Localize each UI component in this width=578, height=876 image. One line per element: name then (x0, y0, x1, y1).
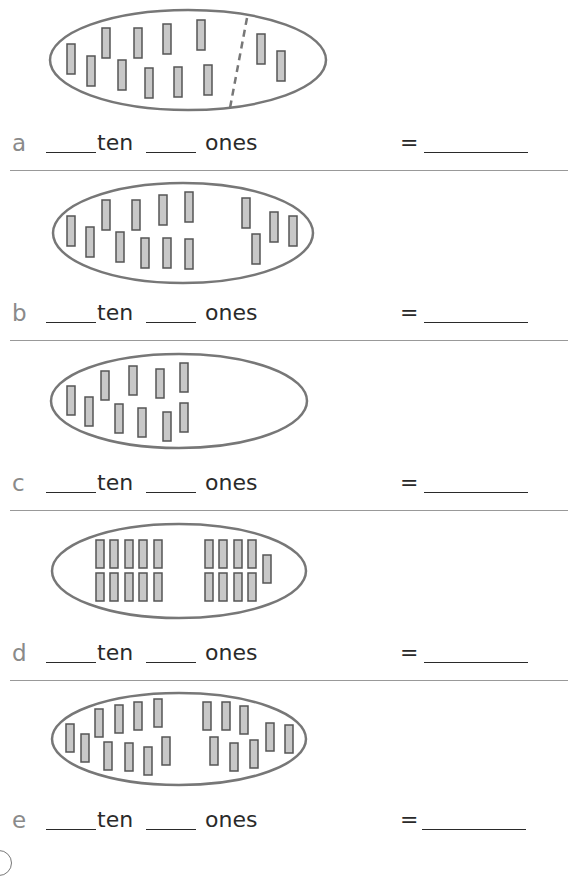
total-blank[interactable] (424, 126, 528, 153)
tens-label: ten (97, 470, 133, 495)
answer-row-a: a ten ones = (0, 126, 578, 166)
answer-row-e: e ten ones = (0, 803, 578, 843)
ones-label: ones (205, 300, 257, 325)
total-blank[interactable] (422, 803, 526, 830)
total-blank[interactable] (424, 636, 528, 663)
tens-blank[interactable] (46, 803, 96, 830)
tens-label: ten (97, 300, 133, 325)
ones-blank[interactable] (146, 296, 196, 323)
tens-label: ten (97, 130, 133, 155)
section-divider (10, 680, 568, 681)
equals-sign: = (400, 640, 418, 665)
ones-label: ones (205, 470, 257, 495)
ones-blank[interactable] (146, 803, 196, 830)
problem-letter: e (12, 807, 26, 833)
ones-blank[interactable] (146, 636, 196, 663)
answer-row-d: d ten ones = (0, 636, 578, 676)
answer-row-c: c ten ones = (0, 466, 578, 506)
total-blank[interactable] (424, 296, 528, 323)
tens-blank[interactable] (46, 466, 96, 493)
dashed-divider-a (230, 18, 247, 108)
counters-b (67, 192, 297, 269)
section-divider (10, 170, 568, 171)
counters-e (66, 699, 293, 775)
equals-sign: = (400, 130, 418, 155)
counter-oval-e (0, 685, 578, 795)
problem-letter: c (12, 470, 25, 496)
tens-label: ten (97, 807, 133, 832)
counters-d (96, 540, 271, 601)
problem-letter: a (12, 130, 26, 156)
ones-label: ones (205, 130, 257, 155)
problem-letter: d (12, 640, 27, 666)
ones-label: ones (205, 640, 257, 665)
equals-sign: = (400, 807, 418, 832)
section-divider (10, 340, 568, 341)
answer-row-b: b ten ones = (0, 296, 578, 336)
ones-blank[interactable] (146, 126, 196, 153)
counter-oval-b (0, 172, 578, 292)
tens-label: ten (97, 640, 133, 665)
counter-oval-d (0, 515, 578, 625)
section-divider (10, 510, 568, 511)
equals-sign: = (400, 300, 418, 325)
total-blank[interactable] (424, 466, 528, 493)
counters-c (67, 363, 188, 441)
problem-letter: b (12, 300, 27, 326)
equals-sign: = (400, 470, 418, 495)
counters-a (67, 20, 285, 98)
counter-oval-a (0, 0, 578, 120)
ones-label: ones (205, 807, 257, 832)
tens-blank[interactable] (46, 296, 96, 323)
counter-oval-c (0, 345, 578, 455)
tens-blank[interactable] (46, 636, 96, 663)
tens-blank[interactable] (46, 126, 96, 153)
ones-blank[interactable] (146, 466, 196, 493)
page-corner-curl (0, 850, 12, 876)
